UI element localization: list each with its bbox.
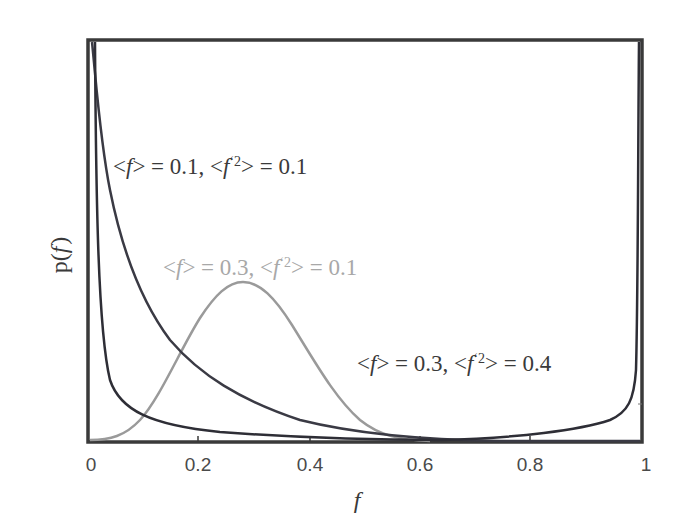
plot-frame [88,40,642,442]
annotation-series-1: <f> = 0.1, <f‘2> = 0.1 [113,154,307,179]
x-tick-label-0.4: 0.4 [297,454,324,475]
x-tick-label-0.6: 0.6 [407,454,433,475]
y-axis-label: p(f) [46,237,72,274]
x-axis-label: f [354,487,364,513]
annotation-series-3: <f> = 0.3, <f‘2> = 0.4 [357,351,552,376]
x-tick-label-1: 1 [641,454,652,475]
x-tick-label-0.8: 0.8 [517,454,543,475]
x-tick-label-0.2: 0.2 [185,454,211,475]
x-tick-label-0: 0 [86,454,97,475]
chart-canvas: 0 0.2 0.4 0.6 0.8 1 f p(f) <f> = 0.1, <f… [0,0,680,523]
annotation-series-2: <f> = 0.3, <f‘2> = 0.1 [163,255,357,280]
